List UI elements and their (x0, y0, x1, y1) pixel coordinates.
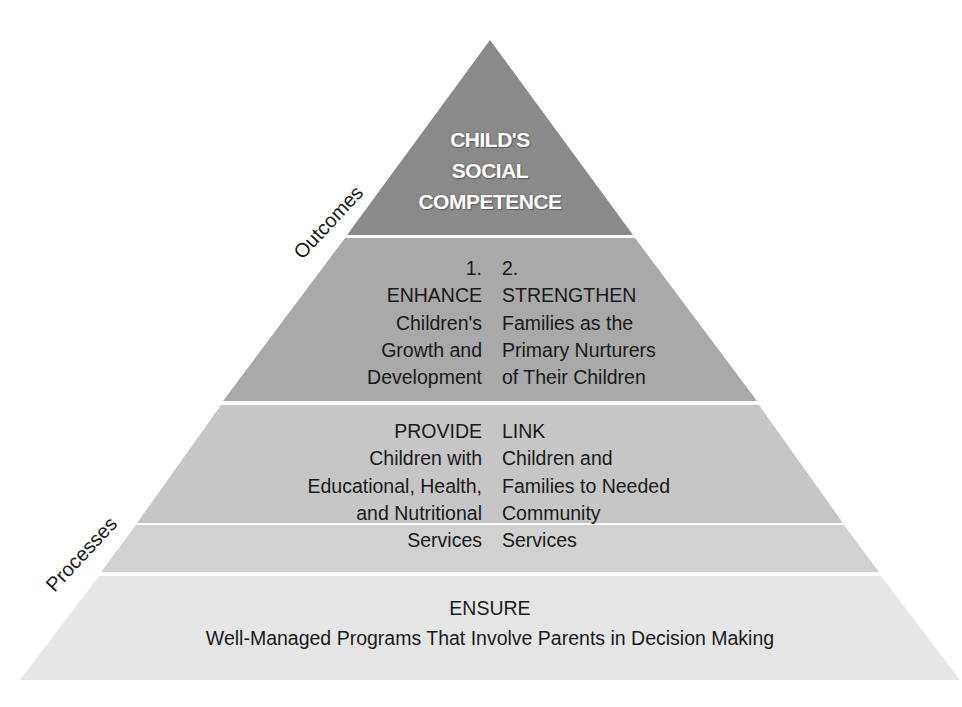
strengthen-line-2: Primary Nurturers (502, 337, 822, 364)
apex-line-1: CHILD'S (340, 124, 640, 155)
enhance-block: 1. ENHANCE Children's Growth and Develop… (182, 255, 482, 391)
strengthen-heading: STRENGTHEN (502, 282, 822, 309)
strengthen-line-3: of Their Children (502, 364, 822, 391)
strengthen-line-1: Families as the (502, 310, 822, 337)
strengthen-block: 2. STRENGTHEN Families as the Primary Nu… (502, 255, 822, 391)
provide-line-3: and Nutritional (182, 500, 482, 527)
enhance-heading: ENHANCE (182, 282, 482, 309)
provide-line-2: Educational, Health, (182, 473, 482, 500)
link-line-2: Families to Needed (502, 473, 822, 500)
link-line-1: Children and (502, 445, 822, 472)
provide-block: PROVIDE Children with Educational, Healt… (182, 418, 482, 554)
apex-line-3: COMPETENCE (340, 186, 640, 217)
provide-heading: PROVIDE (182, 418, 482, 445)
enhance-number: 1. (182, 255, 482, 282)
provide-line-4: Services (182, 527, 482, 554)
provide-line-1: Children with (182, 445, 482, 472)
apex-label: CHILD'S SOCIAL COMPETENCE (340, 124, 640, 217)
enhance-line-3: Development (182, 364, 482, 391)
apex-line-2: SOCIAL (340, 155, 640, 186)
ensure-heading: ENSURE (0, 593, 962, 623)
ensure-subtitle: Well-Managed Programs That Involve Paren… (0, 623, 962, 653)
ensure-block: ENSURE Well-Managed Programs That Involv… (0, 593, 962, 653)
link-line-3: Community (502, 500, 822, 527)
link-heading: LINK (502, 418, 822, 445)
enhance-line-2: Growth and (182, 337, 482, 364)
strengthen-number: 2. (502, 255, 822, 282)
link-block: LINK Children and Families to Needed Com… (502, 418, 822, 554)
enhance-line-1: Children's (182, 310, 482, 337)
link-line-4: Services (502, 527, 822, 554)
